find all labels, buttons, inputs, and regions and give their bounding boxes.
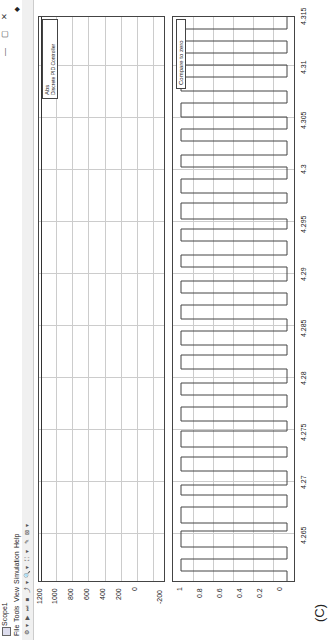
y-tick: 400	[99, 588, 106, 600]
undock-icon[interactable]: ◆	[13, 7, 21, 12]
x-tick: 4.285	[300, 319, 307, 337]
close-button[interactable]: ✕	[0, 13, 9, 20]
grid-line	[39, 273, 164, 274]
x-tick: 4.265	[300, 526, 307, 544]
grid-line	[88, 17, 89, 581]
y-tick: 1000	[51, 588, 58, 604]
grid-line	[121, 17, 122, 581]
grid-line	[39, 533, 164, 534]
y-tick: 1200	[36, 588, 43, 604]
bottom-plot-axes[interactable]: Compare to zero	[172, 16, 295, 582]
y-tick: 0.2	[256, 588, 263, 598]
stop-icon[interactable]: ■	[24, 596, 31, 603]
window-title: Scope1	[1, 602, 8, 626]
x-tick: 4.295	[300, 215, 307, 233]
bottom-legend[interactable]: Compare to zero	[176, 19, 186, 89]
y-tick: 600	[83, 588, 90, 600]
maximize-button[interactable]: ▢	[0, 30, 9, 38]
measure-icon[interactable]: ✎	[24, 538, 31, 545]
dropdown-arrow-icon[interactable]: ▾	[24, 548, 31, 555]
menu-bar: File Tools View Simulation Help ◆	[12, 0, 22, 640]
y-tick: 200	[115, 588, 122, 600]
figure-label: (C)	[312, 604, 327, 622]
run-icon[interactable]: ▶	[24, 614, 31, 621]
title-bar: Scope1 — ▢ ✕	[0, 0, 12, 640]
grid-line	[39, 481, 164, 482]
menu-tools[interactable]: Tools	[13, 606, 20, 622]
top-legend[interactable]: Abs Discrete PID Controller	[42, 19, 58, 99]
scope-app-icon	[2, 627, 11, 636]
cursor-icon[interactable]: ⊠	[24, 529, 31, 536]
grid-line	[153, 17, 154, 581]
grid-line	[105, 17, 106, 581]
x-tick: 4.275	[300, 423, 307, 441]
dropdown-arrow-icon[interactable]: ▾	[24, 622, 31, 629]
zoom-icon[interactable]: 🔍	[24, 571, 31, 578]
grid-line	[56, 17, 57, 581]
x-tick: 4.27	[300, 475, 307, 489]
abs-trace	[41, 17, 42, 581]
dropdown-arrow-icon[interactable]: ▾	[24, 564, 31, 571]
y-tick: 1	[176, 587, 183, 591]
grid-line	[72, 17, 73, 581]
x-tick: 4.29	[300, 267, 307, 281]
y-tick: -200	[156, 590, 163, 604]
grid-line	[39, 429, 164, 430]
legend-entry-compare: Compare to zero	[178, 23, 184, 85]
compare-to-zero-trace	[173, 17, 294, 581]
highlight-block-icon[interactable]: ⤴	[24, 586, 31, 593]
x-tick: 4.315	[300, 7, 307, 25]
settings-icon[interactable]: ⚙	[24, 629, 31, 636]
top-plot-axes[interactable]: Abs Discrete PID Controller	[38, 16, 165, 582]
minimize-button[interactable]: —	[0, 48, 9, 56]
menu-help[interactable]: Help	[13, 534, 20, 548]
menu-file[interactable]: File	[13, 625, 20, 636]
step-forward-icon[interactable]: ⏭	[24, 605, 31, 612]
y-tick: 0	[131, 587, 138, 591]
menu-simulation[interactable]: Simulation	[13, 551, 20, 584]
y-tick: 800	[67, 588, 74, 600]
legend-entry-pid: Discrete PID Controller	[50, 23, 56, 95]
y-tick: 0.4	[236, 588, 243, 598]
autoscale-icon[interactable]: ⛶	[24, 555, 31, 562]
x-tick: 4.31	[300, 60, 307, 74]
dropdown-arrow-icon[interactable]: ▾	[24, 522, 31, 529]
x-tick: 4.3	[300, 164, 307, 174]
grid-line	[39, 325, 164, 326]
grid-line	[137, 17, 138, 581]
grid-line	[39, 169, 164, 170]
dropdown-arrow-icon[interactable]: ▾	[24, 579, 31, 586]
menu-view[interactable]: View	[13, 587, 20, 602]
grid-line	[39, 221, 164, 222]
y-tick: 0.8	[196, 588, 203, 598]
x-tick: 4.28	[300, 371, 307, 385]
grid-line	[39, 377, 164, 378]
y-tick: 0.6	[216, 588, 223, 598]
toolbar: ⚙ ▾ ▶ ⏭ ■ ⤴ ▾ 🔍 ▾ ⛶ ▾ ✎ ⊠ ▾	[22, 0, 34, 640]
x-tick: 4.305	[300, 111, 307, 129]
grid-line	[39, 117, 164, 118]
y-tick: 0	[276, 587, 283, 591]
scope-window: Scope1 — ▢ ✕ File Tools View Simulation …	[0, 0, 333, 640]
